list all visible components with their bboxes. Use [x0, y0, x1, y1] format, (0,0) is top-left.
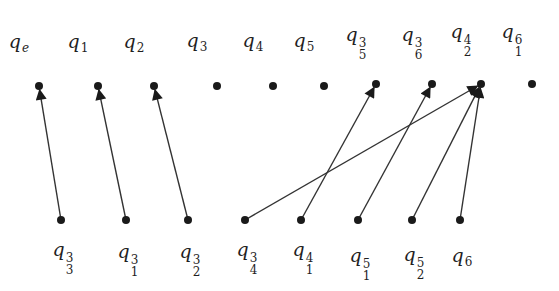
label-subscript: 2 — [137, 41, 145, 55]
label-subscript: 3 — [66, 264, 74, 276]
label-base: q — [118, 240, 130, 262]
node-dot-q3 — [213, 82, 221, 90]
label-base: q — [53, 238, 65, 260]
node-dot-q6 — [456, 216, 464, 224]
label-subscript: 2 — [464, 46, 472, 58]
node-label-q5_3: q35 — [346, 25, 367, 61]
node-label-q2_4: q42 — [451, 22, 472, 58]
label-subscript: 1 — [131, 266, 139, 278]
label-base: q — [180, 240, 192, 262]
label-subscript: 2 — [193, 266, 201, 278]
label-base: q — [9, 30, 21, 52]
label-base: q — [237, 238, 249, 260]
edge-q1_4-to-q5_3 — [301, 88, 374, 221]
node-dot-q2_4 — [477, 80, 485, 88]
node-label-q2: q2 — [124, 32, 145, 54]
node-dot-q1_6 — [528, 80, 536, 88]
node-label-q1_5: q51 — [350, 246, 371, 282]
edge-q2_3-to-q2 — [155, 90, 188, 220]
label-subscript: 1 — [363, 270, 371, 282]
node-label-q2_3: q32 — [180, 242, 201, 278]
node-dot-qe — [35, 82, 43, 90]
edge-q3_3-to-qe — [40, 90, 61, 220]
node-label-q1_6: q61 — [502, 22, 523, 58]
node-dot-q5 — [320, 82, 328, 90]
label-subscript: 5 — [307, 40, 315, 54]
label-base: q — [404, 243, 416, 265]
node-dot-q3_3 — [57, 216, 65, 224]
node-dot-q4 — [269, 82, 277, 90]
label-subscript: 6 — [415, 49, 423, 61]
label-base: q — [402, 23, 414, 45]
edge-q6-to-q2_4 — [460, 88, 480, 220]
label-base: q — [68, 30, 80, 52]
label-subscript: 5 — [359, 49, 367, 61]
node-label-q6_3: q36 — [402, 25, 423, 61]
node-dot-q5_3 — [372, 80, 380, 88]
label-base: q — [293, 238, 305, 260]
node-dot-q1_4 — [297, 216, 305, 224]
node-dot-q1 — [94, 82, 102, 90]
label-base: q — [346, 23, 358, 45]
label-subscript: 1 — [81, 41, 89, 55]
node-dot-q2_5 — [408, 216, 416, 224]
edge-q1_5-to-q6_3 — [358, 88, 430, 221]
label-base: q — [187, 29, 199, 51]
edge-q1_3-to-q1 — [99, 90, 126, 220]
edge-q2_5-to-q2_4 — [412, 88, 479, 220]
node-label-q1_3: q31 — [118, 242, 139, 278]
node-label-q1: q1 — [68, 32, 89, 54]
node-dot-q1_5 — [354, 216, 362, 224]
label-subscript: 6 — [465, 255, 473, 269]
label-subscript: 3 — [200, 40, 208, 54]
label-base: q — [502, 20, 514, 42]
label-base: q — [124, 30, 136, 52]
edge-q4_3-to-q2_4 — [245, 86, 478, 220]
label-base: q — [451, 20, 463, 42]
node-label-qe: qe — [9, 32, 29, 54]
label-subscript: 1 — [306, 264, 314, 276]
label-subscript: 2 — [417, 269, 425, 281]
node-label-q3_3: q33 — [53, 240, 74, 276]
node-dot-q1_3 — [122, 216, 130, 224]
node-dot-q4_3 — [241, 216, 249, 224]
node-label-q4: q4 — [243, 31, 264, 53]
label-subscript: e — [22, 41, 29, 55]
node-dot-q2_3 — [184, 216, 192, 224]
node-label-q4_3: q34 — [237, 240, 258, 276]
label-base: q — [294, 29, 306, 51]
node-label-q2_5: q52 — [404, 245, 425, 281]
node-dot-q6_3 — [428, 80, 436, 88]
node-label-q1_4: q41 — [293, 240, 314, 276]
label-subscript: 4 — [250, 264, 258, 276]
node-label-q3: q3 — [187, 31, 208, 53]
node-label-q6: q6 — [452, 246, 473, 268]
label-subscript: 4 — [256, 40, 264, 54]
graph-canvas: qeq1q2q3q4q5q35q36q42q61q33q31q32q34q41q… — [0, 0, 559, 291]
node-dot-q2 — [150, 82, 158, 90]
label-base: q — [350, 244, 362, 266]
node-label-q5: q5 — [294, 31, 315, 53]
label-base: q — [243, 29, 255, 51]
label-base: q — [452, 244, 464, 266]
label-subscript: 1 — [515, 46, 523, 58]
